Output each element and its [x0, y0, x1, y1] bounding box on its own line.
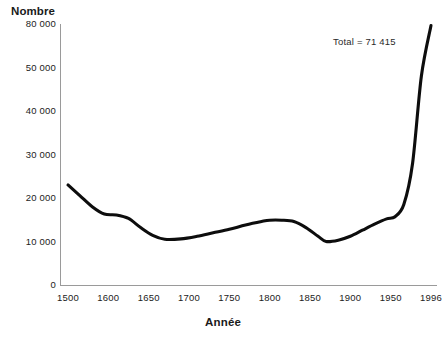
x-tick-label: 1700 [168, 292, 210, 303]
line-series-path [68, 25, 431, 241]
x-tick-label: 1750 [208, 292, 250, 303]
chart-figure: Nombre Total = 71 415 80 00050 00040 000… [0, 0, 446, 341]
x-tick-label: 1500 [47, 292, 89, 303]
x-tick-label: 1900 [329, 292, 371, 303]
x-tick-label: 1950 [370, 292, 412, 303]
x-tick-label: 1996 [410, 292, 446, 303]
line-series [0, 0, 446, 341]
x-tick-label: 1850 [289, 292, 331, 303]
x-tick-label: 1800 [249, 292, 291, 303]
x-tick-label: 1600 [87, 292, 129, 303]
x-tick-label: 1650 [128, 292, 170, 303]
x-axis-title: Année [0, 316, 446, 328]
